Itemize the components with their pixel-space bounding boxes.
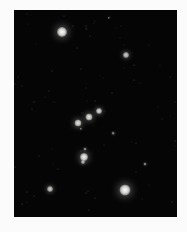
background-star (175, 141, 176, 142)
background-star (94, 20, 95, 21)
background-star (88, 210, 89, 211)
background-star (93, 126, 94, 127)
background-star (72, 25, 73, 26)
background-star (120, 38, 121, 39)
background-star (112, 93, 113, 94)
background-star (134, 65, 135, 66)
star-belt-faint (80, 128, 82, 130)
background-star (105, 110, 106, 111)
background-star (100, 75, 101, 76)
star-faint-mid-right (112, 132, 115, 135)
background-star (77, 48, 78, 49)
star-bellatrix (123, 52, 129, 58)
background-star (149, 184, 150, 185)
background-star (33, 196, 34, 197)
background-star (94, 100, 95, 101)
background-star (142, 199, 143, 200)
background-star (85, 88, 86, 89)
star-sword-lower (81, 160, 85, 164)
background-star (85, 28, 86, 29)
star-mintaka (96, 108, 102, 114)
background-star (81, 150, 82, 151)
background-star (87, 28, 88, 29)
background-star (36, 44, 37, 45)
star-saiph (47, 186, 53, 192)
background-star (26, 191, 27, 192)
background-star (95, 197, 96, 198)
background-star (17, 76, 18, 77)
background-star (171, 201, 172, 202)
background-star (51, 71, 52, 72)
background-star (58, 168, 59, 169)
star-faint-lower-right (144, 163, 147, 166)
background-star (88, 190, 89, 191)
background-star (90, 35, 91, 36)
background-star (15, 166, 16, 167)
star-alnitak (75, 120, 82, 127)
background-star (115, 27, 116, 28)
background-star (149, 44, 150, 45)
background-star (44, 96, 45, 97)
background-star (22, 204, 23, 205)
background-star (135, 142, 136, 143)
background-star (136, 171, 137, 172)
background-star (26, 201, 27, 202)
background-star (52, 163, 53, 164)
background-star (53, 101, 54, 102)
background-star (121, 25, 122, 26)
background-star (87, 100, 88, 101)
background-star (39, 156, 40, 157)
background-star (158, 107, 159, 108)
background-star (81, 113, 82, 114)
background-star (139, 82, 140, 83)
star-betelgeuse (57, 27, 67, 37)
background-star (169, 77, 170, 78)
orion-night-sky-photo (14, 10, 177, 217)
background-star (121, 190, 122, 191)
background-star (80, 68, 81, 69)
background-star (31, 108, 32, 109)
background-star (174, 102, 175, 103)
star-alnilam (86, 114, 93, 121)
background-star (49, 91, 50, 92)
background-star (130, 142, 131, 143)
background-star (103, 78, 104, 79)
background-star (27, 24, 28, 25)
background-star (63, 16, 64, 17)
background-star (104, 145, 105, 146)
background-star (93, 23, 94, 24)
background-star (160, 64, 161, 65)
background-star (86, 192, 87, 193)
background-star (15, 84, 16, 85)
background-star (134, 79, 135, 80)
star-meissa (108, 17, 110, 19)
background-star (123, 68, 124, 69)
background-star (22, 86, 23, 87)
background-star (124, 44, 125, 45)
background-star (170, 116, 171, 117)
background-star (33, 101, 34, 102)
background-star (27, 14, 28, 15)
star-sword-upper (84, 148, 87, 151)
background-star (161, 119, 162, 120)
background-star (52, 149, 53, 150)
background-star (85, 25, 86, 26)
background-star (175, 146, 176, 147)
